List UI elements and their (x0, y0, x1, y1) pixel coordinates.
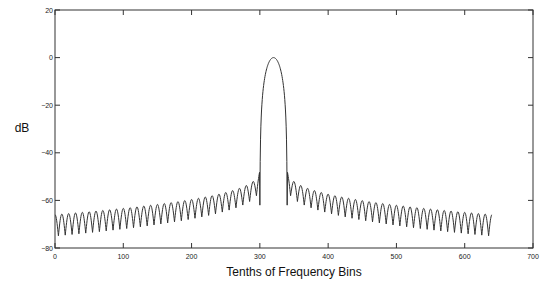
spectrum-line (55, 58, 492, 236)
y-tick-label: −20 (41, 102, 53, 109)
x-tick-label: 300 (254, 253, 266, 260)
y-tick-label: 0 (49, 54, 53, 61)
x-tick-label: 400 (322, 253, 334, 260)
spectrum-chart: 200−20−40−60−80 0100200300400500600700 d… (0, 0, 543, 284)
y-tick-label: −40 (41, 149, 53, 156)
y-tick-label: −80 (41, 245, 53, 252)
x-axis-label: Tenths of Frequency Bins (226, 265, 361, 279)
x-tick-label: 700 (527, 253, 539, 260)
x-tick-label: 500 (391, 253, 403, 260)
plot-frame (55, 10, 533, 248)
x-tick-label: 0 (53, 253, 57, 260)
axes-box (55, 10, 533, 248)
y-tick-label: 20 (45, 7, 53, 14)
y-axis-label: dB (15, 121, 30, 135)
x-tick-label: 100 (117, 253, 129, 260)
x-tick-label: 600 (459, 253, 471, 260)
x-tick-label: 200 (186, 253, 198, 260)
y-tick-label: −60 (41, 197, 53, 204)
